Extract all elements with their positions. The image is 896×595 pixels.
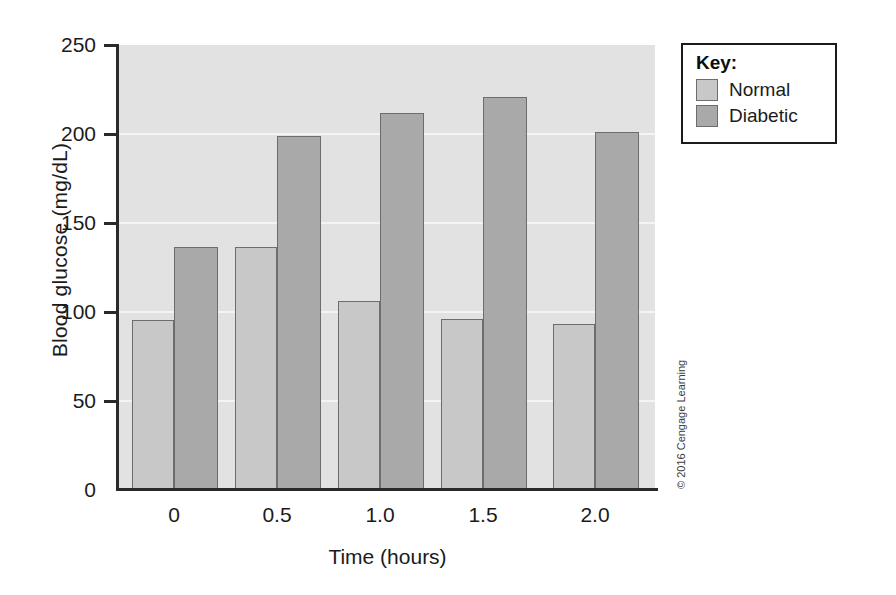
bar-normal-2 bbox=[338, 301, 380, 489]
y-tick-label-150: 150 bbox=[38, 211, 96, 235]
plot-area bbox=[119, 45, 655, 489]
y-tick-label-0: 0 bbox=[38, 478, 96, 502]
legend-swatch-normal bbox=[696, 79, 718, 101]
y-tick-label-50: 50 bbox=[38, 389, 96, 413]
x-tick-label-1.5: 1.5 bbox=[443, 503, 523, 527]
bar-diabetic-1 bbox=[277, 136, 321, 489]
bar-normal-4 bbox=[553, 324, 595, 489]
bar-diabetic-2 bbox=[380, 113, 424, 490]
bar-diabetic-4 bbox=[595, 132, 639, 489]
y-axis-line bbox=[116, 44, 119, 491]
legend-label-diabetic: Diabetic bbox=[729, 105, 798, 127]
copyright-credit: © 2016 Cengage Learning bbox=[675, 319, 687, 489]
bar-diabetic-3 bbox=[483, 97, 527, 489]
x-tick-label-0.5: 0.5 bbox=[237, 503, 317, 527]
bar-diabetic-0 bbox=[174, 247, 218, 489]
legend-swatch-diabetic bbox=[696, 105, 718, 127]
x-tick-label-1.0: 1.0 bbox=[340, 503, 420, 527]
bar-normal-3 bbox=[441, 319, 483, 489]
x-axis-line bbox=[116, 488, 658, 491]
legend: Key: Normal Diabetic bbox=[681, 43, 837, 144]
y-tick-label-100: 100 bbox=[38, 300, 96, 324]
legend-entry-normal: Normal bbox=[696, 79, 835, 101]
legend-label-normal: Normal bbox=[729, 79, 790, 101]
figure-bar-chart: Blood glucose (mg/dL) 250 200 150 100 50… bbox=[0, 0, 896, 595]
y-tick-label-200: 200 bbox=[38, 122, 96, 146]
y-tick-label-250: 250 bbox=[38, 33, 96, 57]
legend-title: Key: bbox=[696, 52, 835, 74]
x-tick-label-0: 0 bbox=[134, 503, 214, 527]
bar-normal-0 bbox=[132, 320, 174, 489]
x-tick-label-2.0: 2.0 bbox=[555, 503, 635, 527]
legend-entry-diabetic: Diabetic bbox=[696, 105, 835, 127]
bar-normal-1 bbox=[235, 247, 277, 489]
x-axis-title: Time (hours) bbox=[115, 545, 660, 569]
